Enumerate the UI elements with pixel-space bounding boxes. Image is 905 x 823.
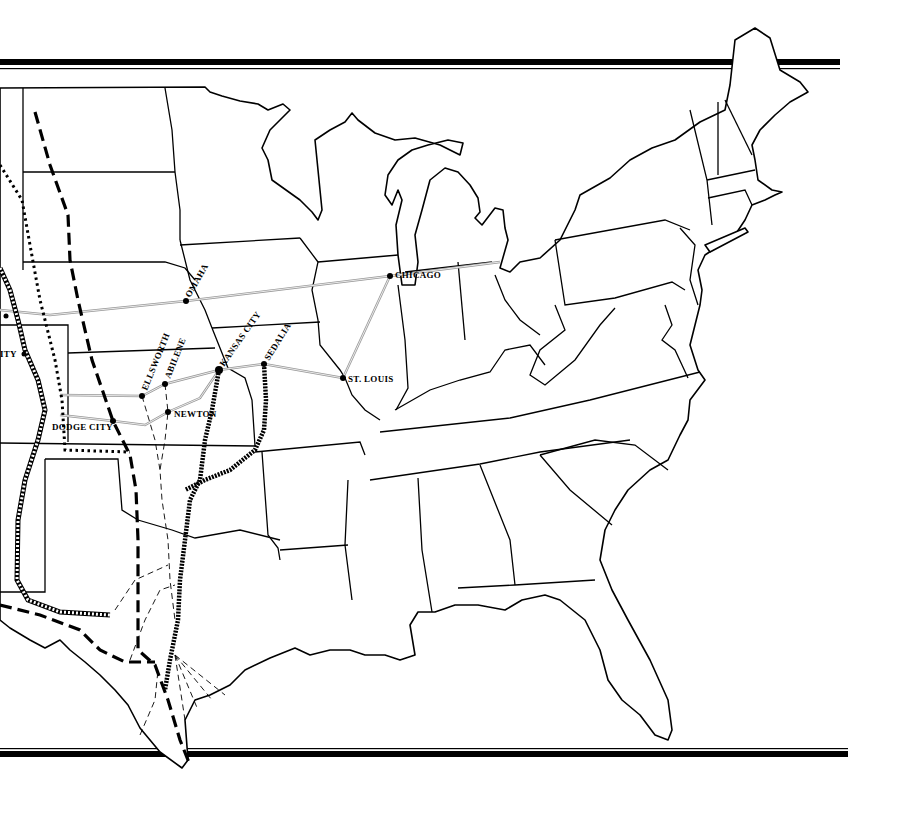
top-frame-bar — [0, 59, 840, 65]
city-dot-abilene — [162, 381, 168, 387]
historical-trails-map: OMAHA CHICAGO ST. LOUIS KANSAS CITY SEDA… — [0, 0, 905, 823]
top-frame-thin-line — [0, 68, 840, 69]
city-dot-partial-city — [22, 352, 27, 357]
label-newton: NEWTON — [174, 409, 217, 419]
city-dot-chicago — [387, 273, 393, 279]
label-chicago: CHICAGO — [395, 270, 441, 280]
states-layer — [0, 28, 808, 768]
city-dot-kansas-city — [215, 366, 223, 374]
city-dot-ellsworth — [139, 393, 145, 399]
city-dot-newton — [165, 409, 171, 415]
us-landmass — [0, 28, 808, 768]
city-dot-sedalia — [261, 361, 267, 367]
city-dot-partial-west — [4, 314, 9, 319]
city-dot-omaha — [183, 298, 189, 304]
label-st-louis: ST. LOUIS — [348, 374, 394, 384]
label-partial-city: ITY — [0, 349, 17, 359]
bottom-frame-thin-line — [0, 748, 848, 749]
bottom-frame-bar — [0, 751, 848, 757]
city-dot-st-louis — [340, 375, 346, 381]
label-dodge-city: DODGE CITY — [52, 422, 113, 432]
